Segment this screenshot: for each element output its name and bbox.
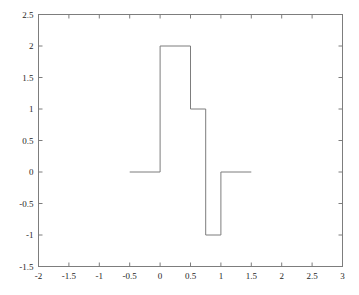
x-tick-label: 3 [340, 272, 345, 281]
x-tick-label: 2 [279, 272, 284, 281]
figure-container: -2-1.5-1-0.500.511.522.53 -1.5-1-0.500.5… [0, 0, 359, 295]
y-tick-label: 2.5 [0, 10, 34, 19]
x-tick-label: -0.5 [123, 272, 137, 281]
x-tick-label: -1.5 [62, 272, 76, 281]
x-tick-label: 1 [219, 272, 224, 281]
y-tick-label: -1 [0, 231, 34, 240]
y-tick-label: 0.5 [0, 136, 34, 145]
y-tick-label: -0.5 [0, 199, 34, 208]
x-tick-label: 0.5 [185, 272, 196, 281]
y-tick-label: 1.5 [0, 73, 34, 82]
x-tick-label: 2.5 [306, 272, 317, 281]
y-tick-label: 2 [0, 42, 34, 51]
step-plot [0, 0, 359, 295]
x-tick-label: 1.5 [246, 272, 257, 281]
x-tick-label: 0 [158, 272, 163, 281]
y-tick-label: 0 [0, 168, 34, 177]
x-tick-label: -2 [35, 272, 43, 281]
x-tick-label: -1 [96, 272, 104, 281]
y-tick-label: 1 [0, 105, 34, 114]
y-tick-label: -1.5 [0, 262, 34, 271]
